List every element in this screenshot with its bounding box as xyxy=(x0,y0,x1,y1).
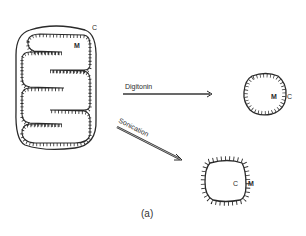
particle-label-m: M xyxy=(248,180,254,187)
mitoplast-label-m: M xyxy=(271,93,277,100)
intact-mitochondrion: C M xyxy=(16,24,97,149)
sonication-arrow: Sonication xyxy=(117,117,182,160)
mitoplast-label-c: C xyxy=(287,93,292,100)
digitonin-arrow: Digitonin xyxy=(123,83,212,97)
label-inner-m: M xyxy=(74,42,80,49)
mitoplast: M C xyxy=(244,74,292,115)
digitonin-label: Digitonin xyxy=(125,83,152,91)
figure-caption: (a) xyxy=(141,208,153,219)
label-outer-c: C xyxy=(92,24,97,31)
diagram-canvas: C M Digitonin M C Sonication C M xyxy=(0,0,306,236)
submitochondrial-particle: C M xyxy=(203,158,254,203)
particle-label-c: C xyxy=(233,180,238,187)
